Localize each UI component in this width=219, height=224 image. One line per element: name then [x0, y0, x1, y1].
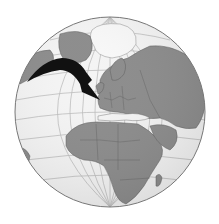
globe-svg: [0, 0, 219, 224]
globe-figure: [0, 0, 219, 224]
